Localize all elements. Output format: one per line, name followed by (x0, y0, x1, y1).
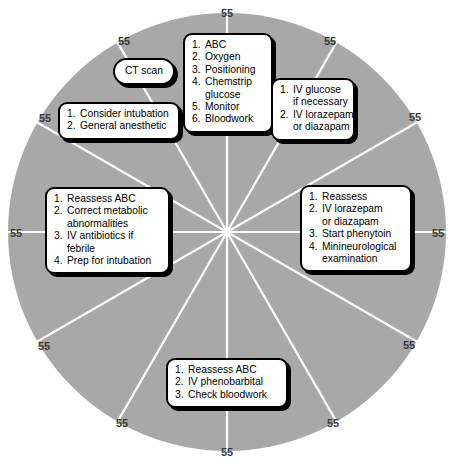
list-text: Bloodwork (205, 113, 264, 125)
list-item: 3.Check bloodwork (175, 389, 279, 401)
list-text: IV glucoseif necessary (293, 84, 348, 109)
list-text-continuation: or diazapam (293, 121, 354, 133)
list-text: ABC (205, 39, 264, 51)
ring-value-label: 55 (38, 341, 50, 352)
list-item: 4.Prep for intubation (54, 255, 161, 267)
list-text: Correct metabolicabnormalities (67, 205, 161, 230)
list-text: Start phenytoin (322, 228, 403, 240)
list-number: 4. (192, 76, 205, 88)
list-text-line: IV lorazepam (322, 203, 383, 214)
callout-label: CT scan (125, 65, 163, 76)
list-item: 2.Oxygen (192, 51, 264, 63)
list-text: IV antibiotics iffebrile (67, 230, 161, 255)
list-text-continuation: febrile (67, 243, 161, 255)
list-text-continuation: abnormalities (67, 218, 161, 230)
list-item: 2.Correct metabolicabnormalities (54, 205, 161, 230)
list-text: Positioning (205, 64, 264, 76)
ring-value-label: 55 (221, 8, 233, 19)
list-text-line: IV glucose (293, 84, 341, 95)
ring-value-label: 55 (221, 447, 233, 458)
ring-value-label: 55 (39, 113, 51, 124)
list-item: 4.Minineurologicalexamination (309, 241, 403, 266)
list-text: Reassess ABC (67, 193, 161, 205)
list-text: Consider intubation (80, 108, 171, 120)
list-item: 2.IV phenobarbital (175, 376, 279, 388)
list-number: 1. (67, 108, 80, 120)
list-item: 1.ABC (192, 39, 264, 51)
list-text: Reassess ABC (188, 364, 279, 376)
list-text: Chemstripglucose (205, 76, 264, 101)
ring-value-label: 55 (432, 228, 444, 239)
ring-value-label: 55 (409, 112, 421, 123)
list-number: 5. (192, 101, 205, 113)
list-text-continuation: or diazapam (322, 216, 403, 228)
callout-list: 1.ABC 2.Oxygen 3.Positioning 4.Chemstrip… (192, 39, 264, 126)
callout-list: 1.IV glucoseif necessary 2.IV lorazepamo… (280, 84, 346, 134)
list-text: General anesthetic (80, 120, 171, 132)
list-number: 1. (280, 84, 293, 96)
list-number: 1. (309, 191, 322, 203)
callout-reassess-phenytoin[interactable]: 1.Reassess 2.IV lorazepamor diazapam 3.S… (300, 185, 412, 272)
callout-initial-assessment[interactable]: 1.ABC 2.Oxygen 3.Positioning 4.Chemstrip… (183, 33, 273, 133)
list-text: Reassess (322, 191, 403, 203)
list-number: 3. (309, 228, 322, 240)
list-number: 3. (54, 230, 67, 242)
list-item: 1.Reassess ABC (175, 364, 279, 376)
list-number: 6. (192, 113, 205, 125)
callout-ct-scan[interactable]: CT scan (113, 58, 175, 85)
list-item: 6.Bloodwork (192, 113, 264, 125)
ring-value-label: 55 (327, 418, 339, 429)
callout-list: 1.Reassess 2.IV lorazepamor diazapam 3.S… (309, 191, 403, 265)
ring-value-label: 55 (116, 418, 128, 429)
callout-list: 1.Consider intubation 2.General anesthet… (67, 108, 171, 133)
list-text: IV lorazepamor diazapam (293, 109, 354, 134)
list-number: 3. (192, 64, 205, 76)
callout-list: 1.Reassess ABC 2.Correct metabolicabnorm… (54, 193, 161, 267)
list-item: 3.Start phenytoin (309, 228, 403, 240)
list-item: 2.IV lorazepamor diazapam (309, 203, 403, 228)
list-text-line: IV antibiotics if (67, 230, 133, 241)
ring-value-label: 55 (403, 340, 415, 351)
list-number: 1. (175, 364, 188, 376)
list-text: Monitor (205, 101, 264, 113)
list-item: 3.Positioning (192, 64, 264, 76)
ring-value-label: 55 (324, 36, 336, 47)
list-text-line: Chemstrip (205, 76, 252, 87)
callout-reassess-phenobarbital[interactable]: 1.Reassess ABC 2.IV phenobarbital 3.Chec… (166, 358, 288, 408)
list-item: 1.IV glucoseif necessary (280, 84, 346, 109)
list-text-continuation: if necessary (293, 96, 348, 108)
figure-canvas: 555555555555555555555555 1.ABC 2.Oxygen … (0, 0, 453, 463)
list-number: 2. (280, 109, 293, 121)
list-item: 5.Monitor (192, 101, 264, 113)
list-number: 3. (175, 389, 188, 401)
list-number: 1. (192, 39, 205, 51)
ring-value-label: 55 (10, 228, 22, 239)
list-item: 2.IV lorazepamor diazapam (280, 109, 346, 134)
list-number: 2. (192, 51, 205, 63)
list-number: 2. (175, 376, 188, 388)
list-number: 4. (54, 255, 67, 267)
list-text-line: Minineurological (322, 241, 396, 252)
list-number: 2. (67, 120, 80, 132)
list-text-continuation: examination (322, 253, 403, 265)
list-text: Check bloodwork (188, 389, 279, 401)
list-text: IV phenobarbital (188, 376, 279, 388)
list-item: 3.IV antibiotics iffebrile (54, 230, 161, 255)
list-item: 1.Reassess ABC (54, 193, 161, 205)
list-number: 2. (309, 203, 322, 215)
list-item: 4.Chemstripglucose (192, 76, 264, 101)
callout-glucose-benzodiazepine[interactable]: 1.IV glucoseif necessary 2.IV lorazepamo… (271, 78, 355, 141)
callout-intubation-anesthetic[interactable]: 1.Consider intubation 2.General anesthet… (58, 102, 180, 140)
list-text: IV lorazepamor diazapam (322, 203, 403, 228)
ring-value-label: 55 (118, 36, 130, 47)
list-text: Prep for intubation (67, 255, 161, 267)
list-number: 1. (54, 193, 67, 205)
list-text: Minineurologicalexamination (322, 241, 403, 266)
list-number: 4. (309, 241, 322, 253)
callout-metabolic-correction[interactable]: 1.Reassess ABC 2.Correct metabolicabnorm… (45, 187, 170, 274)
list-item: 2.General anesthetic (67, 120, 171, 132)
list-text-line: Correct metabolic (67, 205, 148, 216)
list-item: 1.Consider intubation (67, 108, 171, 120)
list-text-line: IV lorazepam (293, 109, 354, 120)
list-text: Oxygen (205, 51, 264, 63)
